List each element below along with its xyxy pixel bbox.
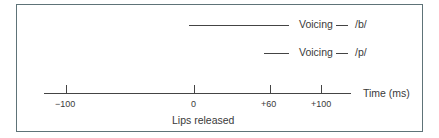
legend-dash-p — [336, 53, 348, 54]
axis-title: Time (ms) — [363, 87, 410, 99]
tick-0 — [194, 85, 195, 94]
voicing-label-p: Voicing — [299, 46, 333, 58]
lips-released-annotation: Lips released — [172, 114, 234, 126]
tick-label-plus-60: +60 — [261, 98, 276, 110]
voicing-bar-p — [264, 53, 289, 54]
time-axis — [44, 93, 351, 94]
tick-plus-60 — [270, 85, 271, 94]
phoneme-label-b: /b/ — [355, 18, 367, 30]
tick-label-plus-100: +100 — [311, 98, 331, 110]
tick-minus-100 — [66, 85, 67, 94]
tick-label-minus-100: −100 — [55, 98, 75, 110]
tick-label-0: 0 — [191, 98, 196, 110]
legend-dash-b — [336, 25, 348, 26]
phoneme-label-p: /p/ — [355, 46, 367, 58]
voicing-bar-b — [189, 25, 289, 26]
tick-plus-100 — [321, 85, 322, 94]
voicing-label-b: Voicing — [299, 18, 333, 30]
